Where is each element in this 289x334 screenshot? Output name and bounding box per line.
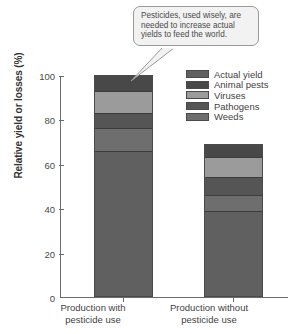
legend-label: Animal pests <box>214 79 268 90</box>
y-tick-label-80: 80 <box>44 115 55 126</box>
legend-label: Viruses <box>214 90 246 101</box>
legend-item-animal-pests[interactable]: Animal pests <box>186 80 268 91</box>
y-axis-title: Relative yield or losses (%) <box>13 6 24 226</box>
y-tick-40 <box>59 209 64 210</box>
bar-segment-weeds[interactable] <box>205 196 262 212</box>
bar-segment-viruses[interactable] <box>205 158 262 178</box>
bar-segment-animal-pests[interactable] <box>205 145 262 158</box>
bar-production-without-pesticide[interactable] <box>204 144 263 297</box>
x-label-line2: pesticide use <box>149 314 269 326</box>
bar-production-with-pesticide[interactable] <box>94 75 153 297</box>
legend-label: Pathogens <box>214 101 259 112</box>
legend-item-weeds[interactable]: Weeds <box>186 111 268 122</box>
legend-swatch-icon <box>186 113 209 121</box>
legend-item-actual-yield[interactable]: Actual yield <box>186 69 268 80</box>
legend-swatch-icon <box>186 102 209 110</box>
legend-swatch-icon <box>186 70 209 78</box>
x-label-line2: pesticide use <box>33 314 153 326</box>
y-tick-60 <box>59 165 64 166</box>
bar-segment-viruses[interactable] <box>95 92 152 114</box>
callout-tail-icon <box>129 48 175 82</box>
legend-swatch-icon <box>186 81 209 89</box>
x-label-line1: Production without <box>149 302 269 314</box>
legend-item-pathogens[interactable]: Pathogens <box>186 101 268 112</box>
bar-segment-pathogens[interactable] <box>205 178 262 196</box>
legend-label: Actual yield <box>214 69 263 80</box>
callout-text: Pesticides, used wisely, are needed to i… <box>141 11 252 40</box>
x-axis-line <box>60 297 288 298</box>
legend-swatch-icon <box>186 91 209 99</box>
bar-segment-actual-yield[interactable] <box>95 152 152 296</box>
bar-segment-weeds[interactable] <box>95 129 152 151</box>
bar-segment-actual-yield[interactable] <box>205 212 262 296</box>
x-label-line1: Production with <box>33 302 153 314</box>
y-tick-label-60: 60 <box>44 159 55 170</box>
bar-segment-pathogens[interactable] <box>95 114 152 130</box>
legend-item-viruses[interactable]: Viruses <box>186 90 268 101</box>
x-label-production-without-pesticide: Production without pesticide use <box>149 302 269 325</box>
chart-legend: Actual yieldAnimal pestsVirusesPathogens… <box>186 69 268 122</box>
y-tick-20 <box>59 254 64 255</box>
y-axis-line <box>60 76 61 298</box>
stacked-bar-chart: Relative yield or losses (%) 100 80 60 4… <box>0 0 289 334</box>
y-tick-label-20: 20 <box>44 248 55 259</box>
callout-box: Pesticides, used wisely, are needed to i… <box>133 6 259 46</box>
y-tick-label-100: 100 <box>39 71 55 82</box>
x-label-production-with-pesticide: Production with pesticide use <box>33 302 153 325</box>
y-tick-80 <box>59 120 64 121</box>
y-tick-100 <box>59 76 64 77</box>
y-tick-label-40: 40 <box>44 204 55 215</box>
legend-label: Weeds <box>214 111 243 122</box>
